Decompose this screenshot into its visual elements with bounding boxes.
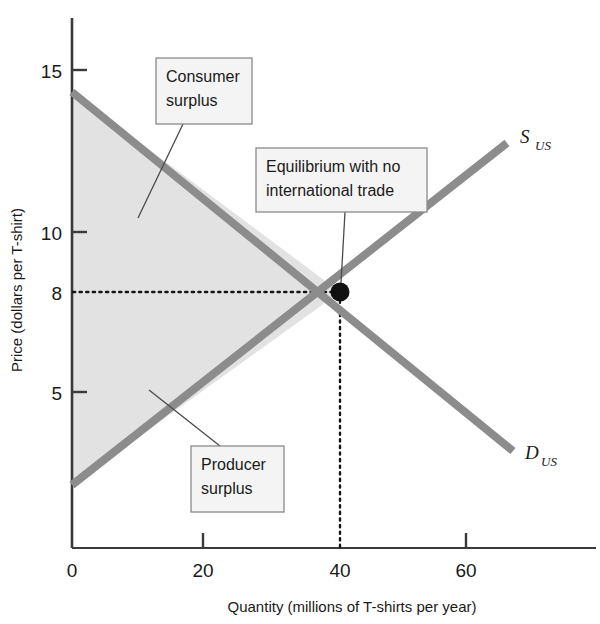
y-tick-label-15: 15	[41, 61, 62, 82]
consumer-surplus-callout-line-2: surplus	[166, 92, 218, 109]
y-axis-title: Price (dollars per T-shirt)	[8, 208, 25, 372]
x-tick-label-40: 40	[329, 560, 350, 581]
supply-curve-label: S US	[520, 126, 551, 153]
economics-supply-demand-chart: 15 10 8 5 0 20 40 60 Price (dollars per …	[0, 0, 600, 624]
x-axis-tick-labels: 0 20 40 60	[67, 560, 477, 581]
equilibrium-callout-line-1: Equilibrium with no	[266, 158, 400, 175]
x-tick-label-60: 60	[455, 560, 476, 581]
supply-curve-label-main: S	[520, 126, 530, 147]
producer-surplus-callout-line-1: Producer	[201, 456, 267, 473]
y-axis-tick-labels: 15 10 8 5	[41, 61, 62, 404]
producer-surplus-callout[interactable]: Producer surplus	[191, 446, 284, 512]
demand-curve-label-main: D	[524, 442, 539, 463]
demand-curve-label: D US	[524, 442, 557, 469]
x-axis-ticks	[203, 533, 466, 548]
equilibrium-callout[interactable]: Equilibrium with no international trade	[256, 148, 427, 212]
equilibrium-callout-line-2: international trade	[266, 182, 394, 199]
y-tick-label-8: 8	[51, 283, 62, 304]
y-tick-label-10: 10	[41, 223, 62, 244]
supply-curve-label-sub: US	[535, 138, 551, 153]
x-tick-label-20: 20	[192, 560, 213, 581]
equilibrium-point-marker	[331, 283, 350, 302]
producer-surplus-callout-line-2: surplus	[201, 480, 253, 497]
consumer-surplus-callout-line-1: Consumer	[166, 68, 240, 85]
consumer-surplus-callout[interactable]: Consumer surplus	[156, 58, 252, 124]
x-tick-label-0: 0	[67, 560, 78, 581]
demand-curve-label-sub: US	[541, 454, 557, 469]
x-axis-title: Quantity (millions of T-shirts per year)	[228, 598, 477, 615]
y-tick-label-5: 5	[51, 383, 62, 404]
